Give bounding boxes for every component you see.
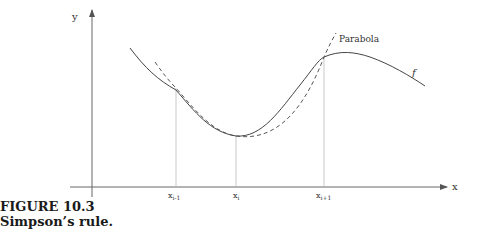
parabola-curve [155,33,336,137]
tick-x-i-minus-1: xi-1 [168,191,180,201]
tick-x-i: xi [233,191,240,201]
y-axis-label: y [71,11,78,22]
function-label: f [411,67,418,78]
x-axis-label: x [452,181,458,192]
parabola-label: Parabola [339,34,380,44]
figure-caption: FIGURE 10.3 Simpson’s rule. [0,199,113,229]
tick-x-i-plus-1: xi+1 [316,191,331,201]
function-curve [130,48,425,136]
caption-text: Simpson’s rule. [0,214,113,229]
caption-number: FIGURE 10.3 [0,199,113,214]
